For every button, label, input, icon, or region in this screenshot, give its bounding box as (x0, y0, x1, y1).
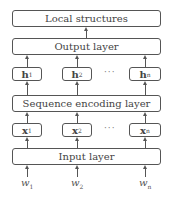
input-ellipsis: ··· (104, 123, 116, 133)
sequence-encoding-label: Sequence encoding layer (23, 98, 151, 109)
arrow-x1-to-seq (27, 116, 28, 123)
input-node-x1: x1 (12, 123, 42, 137)
arrowhead-icon (143, 55, 147, 59)
arrowhead-icon (84, 27, 88, 31)
sequence-encoding-layer-box: Sequence encoding layer (12, 95, 161, 112)
hidden-node-hn: hn (129, 67, 161, 81)
arrowhead-icon (143, 137, 147, 141)
arrowhead-icon (143, 165, 147, 169)
arrow-xn-to-seq (145, 116, 146, 123)
arrow-seq-to-h1 (27, 85, 28, 95)
arrow-seq-to-h2 (77, 85, 78, 95)
arrow-wn-to-input (145, 169, 146, 177)
hn-sub: n (147, 71, 151, 78)
output-layer-label: Output layer (54, 41, 118, 52)
arrow-input-to-x2 (77, 141, 78, 148)
wn-base: w (139, 177, 148, 188)
word-input-w1: w1 (21, 177, 33, 190)
w1-sub: 1 (30, 183, 34, 190)
arrow-w1-to-input (27, 169, 28, 177)
word-input-w2: w2 (71, 177, 83, 190)
arrow-input-to-xn (145, 141, 146, 148)
hidden-ellipsis: ··· (104, 67, 116, 77)
h2-base: h (71, 69, 78, 80)
arrow-seq-to-hn (145, 85, 146, 95)
arrowhead-icon (75, 137, 79, 141)
arrow-h2-to-output (77, 59, 78, 67)
arrow-input-to-x1 (27, 141, 28, 148)
local-structures-box: Local structures (12, 10, 161, 27)
x2-sub: 2 (78, 127, 82, 134)
arrow-h1-to-output (27, 59, 28, 67)
h2-sub: 2 (79, 71, 83, 78)
arrowhead-icon (75, 112, 79, 116)
hn-base: h (139, 69, 146, 80)
arrowhead-icon (75, 81, 79, 85)
w1-base: w (21, 177, 30, 188)
xn-sub: n (146, 127, 150, 134)
h1-sub: 1 (29, 71, 33, 78)
arrowhead-icon (143, 112, 147, 116)
arrow-w2-to-input (77, 169, 78, 177)
word-input-wn: wn (139, 177, 151, 190)
input-layer-box: Input layer (12, 148, 161, 165)
hidden-node-h2: h2 (62, 67, 92, 81)
w2-base: w (71, 177, 80, 188)
arrowhead-icon (143, 81, 147, 85)
local-structures-label: Local structures (45, 13, 128, 24)
wn-sub: n (148, 183, 152, 190)
w2-sub: 2 (80, 183, 84, 190)
h1-base: h (21, 69, 28, 80)
arrow-x2-to-seq (77, 116, 78, 123)
arrow-hn-to-output (145, 59, 146, 67)
arrowhead-icon (25, 112, 29, 116)
arrowhead-icon (75, 55, 79, 59)
arrowhead-icon (25, 55, 29, 59)
arrowhead-icon (25, 81, 29, 85)
input-node-x2: x2 (62, 123, 92, 137)
hidden-node-h1: h1 (12, 67, 42, 81)
arrow-output-to-local (86, 31, 87, 38)
arrowhead-icon (75, 165, 79, 169)
x1-sub: 1 (28, 127, 32, 134)
input-layer-label: Input layer (59, 151, 115, 162)
arrowhead-icon (25, 137, 29, 141)
input-node-xn: xn (129, 123, 161, 137)
arrowhead-icon (25, 165, 29, 169)
output-layer-box: Output layer (12, 38, 161, 55)
